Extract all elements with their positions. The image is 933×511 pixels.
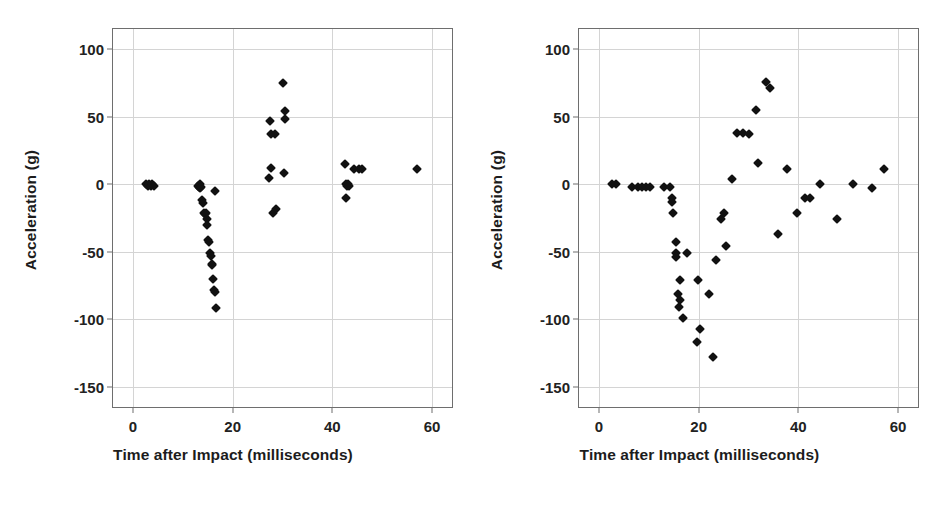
data-point [704,289,714,299]
gridline-horizontal [113,387,452,388]
data-point [693,275,703,285]
gridline-vertical [898,29,899,407]
x-axis-tick-mark [898,407,899,413]
x-axis-tick-label: 20 [690,418,707,435]
x-axis-tick-label: 40 [790,418,807,435]
data-point [711,255,721,265]
y-axis-tick-mark [107,319,113,320]
x-axis-tick-mark [232,407,233,413]
x-axis-tick-label: 60 [890,418,907,435]
y-axis-tick-label: 0 [96,176,104,193]
gridline-vertical [133,29,134,407]
data-point [675,275,685,285]
data-point [671,237,681,247]
data-point [678,313,688,323]
y-axis-tick-mark [107,49,113,50]
data-point [848,179,858,189]
x-axis-tick-mark [332,407,333,413]
y-axis-tick-label: -150 [74,378,104,395]
data-point [266,163,276,173]
y-axis-tick-mark [107,184,113,185]
gridline-horizontal [579,49,918,50]
gridline-vertical [798,29,799,407]
y-axis-tick-label: 50 [553,108,570,125]
left-panel: Acceleration (g) 100500-50-100-150020406… [0,0,466,511]
gridline-horizontal [579,319,918,320]
scatter-plot-figure: Acceleration (g) 100500-50-100-150020406… [0,0,933,511]
y-axis-tick-mark [573,184,579,185]
data-point [708,352,718,362]
right-y-axis-title-text: Acceleration (g) [488,150,506,270]
gridline-horizontal [579,252,918,253]
y-axis-tick-label: -100 [540,311,570,328]
data-point [341,193,351,203]
y-axis-tick-mark [573,319,579,320]
y-axis-tick-label: -100 [74,311,104,328]
data-point [210,186,220,196]
gridline-horizontal [113,49,452,50]
data-point [208,274,218,284]
y-axis-tick-mark [573,251,579,252]
data-point [695,324,705,334]
y-axis-tick-label: -50 [548,243,570,260]
x-axis-tick-label: 40 [324,418,341,435]
left-x-axis-title: Time after Impact (milliseconds) [0,446,466,464]
right-panel: Acceleration (g) 100500-50-100-150020406… [466,0,933,511]
data-point [692,337,702,347]
y-axis-tick-mark [573,49,579,50]
x-axis-tick-mark [132,407,133,413]
data-point [782,164,792,174]
right-y-axis-title: Acceleration (g) [480,0,514,420]
y-axis-tick-label: -50 [82,243,104,260]
y-axis-tick-label: 0 [562,176,570,193]
y-axis-tick-label: 100 [545,41,570,58]
gridline-horizontal [579,387,918,388]
x-axis-tick-label: 60 [424,418,441,435]
y-axis-tick-label: -150 [540,378,570,395]
gridline-horizontal [113,252,452,253]
gridline-horizontal [113,319,452,320]
y-axis-tick-mark [107,386,113,387]
x-axis-tick-mark [432,407,433,413]
data-point [264,173,274,183]
data-point [792,208,802,218]
left-y-axis-title-text: Acceleration (g) [22,150,40,270]
x-axis-tick-label: 0 [129,418,137,435]
data-point [773,229,783,239]
left-plot-area: 100500-50-100-1500204060 [112,28,453,408]
left-y-axis-title: Acceleration (g) [14,0,48,420]
data-point [674,302,684,312]
gridline-vertical [699,29,700,407]
data-point [721,241,731,251]
x-axis-tick-mark [698,407,699,413]
y-axis-tick-mark [573,386,579,387]
gridline-vertical [332,29,333,407]
y-axis-tick-mark [573,116,579,117]
x-axis-tick-mark [598,407,599,413]
data-point [832,214,842,224]
data-point [879,164,889,174]
data-point [765,83,775,93]
x-axis-tick-label: 0 [595,418,603,435]
y-axis-tick-label: 100 [79,41,104,58]
data-point [727,174,737,184]
data-point [815,179,825,189]
data-point [752,105,762,115]
gridline-vertical [432,29,433,407]
data-point [280,168,290,178]
x-axis-tick-mark [798,407,799,413]
gridline-horizontal [579,117,918,118]
y-axis-tick-mark [107,251,113,252]
y-axis-tick-label: 50 [87,108,104,125]
data-point [211,303,221,313]
right-x-axis-title: Time after Impact (milliseconds) [466,446,933,464]
data-point [754,158,764,168]
data-point [682,248,692,258]
data-point [278,78,288,88]
gridline-vertical [599,29,600,407]
gridline-vertical [233,29,234,407]
right-plot-area: 100500-50-100-1500204060 [578,28,919,408]
data-point [668,208,678,218]
x-axis-tick-label: 20 [224,418,241,435]
data-point [412,164,422,174]
